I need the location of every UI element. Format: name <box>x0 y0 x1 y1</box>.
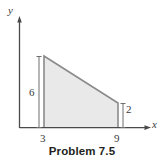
x-axis-label: x <box>152 119 157 130</box>
x-axis-arrowhead <box>145 125 152 130</box>
plot-drawing <box>0 0 164 163</box>
y-axis-label: y <box>8 5 13 16</box>
x-tick-label-3: 3 <box>40 133 46 144</box>
dimension-line-right-height <box>121 104 126 128</box>
dimension-label-right-height: 2 <box>126 104 132 115</box>
y-axis-arrowhead <box>17 16 22 23</box>
dimension-label-left-height: 6 <box>29 87 35 98</box>
figure-caption: Problem 7.5 <box>0 145 164 158</box>
dimension-line-left-height <box>37 57 42 128</box>
x-tick-label-9: 9 <box>114 133 120 144</box>
shaded-trapezoid-region <box>44 56 118 128</box>
figure-container: y x 3 9 6 2 Problem 7.5 <box>0 0 164 163</box>
